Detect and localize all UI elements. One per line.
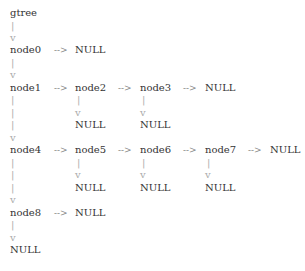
right-arrow: --> (118, 144, 132, 156)
node4: node4 (10, 144, 41, 156)
down-pipe: | (11, 107, 14, 119)
null-label: NULL (205, 182, 235, 194)
right-arrow: --> (248, 144, 262, 156)
down-pipe: | (11, 169, 14, 181)
down-pipe: | (77, 94, 80, 106)
null-label: NULL (75, 182, 105, 194)
down-arrow: v (75, 169, 81, 181)
right-arrow: --> (183, 82, 197, 94)
null-label: NULL (10, 244, 40, 256)
down-pipe: | (11, 219, 14, 231)
node6: node6 (140, 144, 171, 156)
down-pipe: | (142, 94, 145, 106)
down-arrow: v (75, 107, 81, 119)
null-label: NULL (75, 207, 105, 219)
down-arrow: v (205, 169, 211, 181)
down-pipe: | (11, 20, 14, 32)
node1: node1 (10, 82, 41, 94)
down-pipe: | (11, 94, 14, 106)
root-label: gtree (10, 7, 37, 19)
null-label: NULL (140, 119, 170, 131)
down-pipe: | (11, 57, 14, 69)
right-arrow: --> (54, 144, 68, 156)
node2: node2 (75, 82, 106, 94)
down-arrow: v (10, 69, 16, 81)
null-label: NULL (75, 44, 105, 56)
down-arrow: v (10, 132, 16, 144)
linked-tree-diagram: gtree | v node0 --> NULL | v node1 --> n… (0, 0, 305, 271)
right-arrow: --> (54, 207, 68, 219)
null-label: NULL (75, 119, 105, 131)
down-arrow: v (10, 32, 16, 44)
node7: node7 (205, 144, 236, 156)
null-label: NULL (205, 82, 235, 94)
down-pipe: | (11, 157, 14, 169)
right-arrow: --> (183, 144, 197, 156)
down-arrow: v (10, 232, 16, 244)
down-pipe: | (11, 119, 14, 131)
down-arrow: v (10, 194, 16, 206)
right-arrow: --> (54, 44, 68, 56)
down-arrow: v (140, 107, 146, 119)
node5: node5 (75, 144, 106, 156)
down-pipe: | (77, 157, 80, 169)
node0: node0 (10, 44, 41, 56)
null-label: NULL (140, 182, 170, 194)
right-arrow: --> (54, 82, 68, 94)
down-pipe: | (142, 157, 145, 169)
down-arrow: v (140, 169, 146, 181)
down-pipe: | (11, 182, 14, 194)
node8: node8 (10, 207, 41, 219)
node3: node3 (140, 82, 171, 94)
null-label: NULL (270, 144, 300, 156)
right-arrow: --> (118, 82, 132, 94)
down-pipe: | (207, 157, 210, 169)
